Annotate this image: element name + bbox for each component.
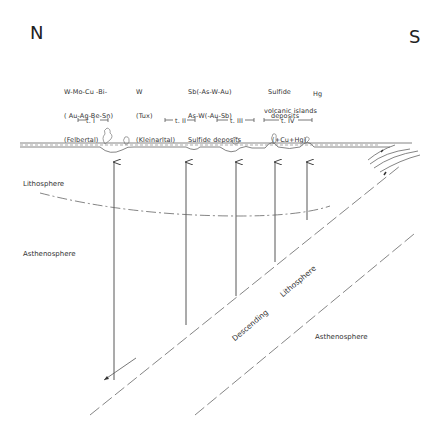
volcano-plume-icon [272, 134, 277, 143]
crust-surface [20, 143, 390, 153]
surface [20, 143, 412, 153]
slab-upper-boundary [90, 166, 400, 415]
volcano-plume-icon [103, 128, 112, 144]
bracket-t3 [217, 118, 254, 122]
bracket-t1 [78, 118, 108, 122]
lithosphere-boundary [40, 193, 330, 216]
time-interval-brackets [78, 118, 312, 122]
diagram-graphics [0, 0, 440, 442]
bracket-t4 [264, 118, 312, 122]
volcano-icons [103, 128, 309, 144]
bracket-t2 [165, 118, 195, 122]
subduction-arrow-icon [384, 172, 386, 175]
magma-arrows [114, 162, 307, 380]
trench-arrow-icon [381, 150, 383, 152]
subduction-direction-line [104, 358, 136, 380]
trench-lines [368, 145, 420, 172]
slab-lower-boundary [195, 234, 414, 415]
volcano-plume-icon [305, 137, 310, 143]
